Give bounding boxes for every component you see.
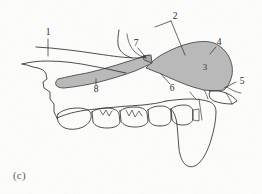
label-4: 4 bbox=[217, 37, 222, 47]
label-6: 6 bbox=[170, 83, 175, 93]
label-1: 1 bbox=[46, 27, 51, 37]
figure-caption: (c) bbox=[13, 170, 26, 181]
figure-drawing: 1 2 3 4 5 6 7 8 bbox=[0, 0, 262, 194]
label-3: 3 bbox=[203, 62, 208, 72]
paper-grain bbox=[0, 0, 262, 194]
anatomical-figure: 1 2 3 4 5 6 7 8 (c) bbox=[0, 0, 262, 194]
label-2: 2 bbox=[173, 11, 178, 21]
label-8: 8 bbox=[94, 84, 99, 94]
label-7: 7 bbox=[134, 38, 139, 48]
label-5: 5 bbox=[240, 76, 245, 86]
